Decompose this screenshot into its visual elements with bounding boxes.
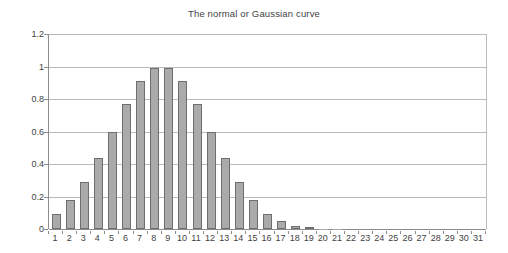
x-tick-mark-24: [372, 231, 373, 234]
x-tick-mark-8: [147, 231, 148, 234]
x-axis-label-23: 23: [360, 233, 370, 243]
bar-18: [291, 226, 300, 229]
x-tick-mark-10: [175, 231, 176, 234]
x-tick-mark-2: [62, 231, 63, 234]
x-tick-mark-26: [400, 231, 401, 234]
x-axis-label-30: 30: [459, 233, 469, 243]
x-tick-mark-17: [274, 231, 275, 234]
x-axis-label-14: 14: [233, 233, 243, 243]
x-tick-mark-16: [259, 231, 260, 234]
bar-4: [94, 158, 103, 230]
x-axis-label-19: 19: [304, 233, 314, 243]
x-axis-label-21: 21: [332, 233, 342, 243]
x-axis-label-26: 26: [402, 233, 412, 243]
x-tick-mark-4: [90, 231, 91, 234]
bar-15: [249, 200, 258, 229]
x-axis-label-17: 17: [276, 233, 286, 243]
y-axis-label-0.6: 0.6: [2, 127, 44, 137]
x-axis-label-20: 20: [318, 233, 328, 243]
x-axis-label-1: 1: [53, 233, 58, 243]
x-axis-label-7: 7: [137, 233, 142, 243]
x-axis-label-8: 8: [151, 233, 156, 243]
chart-container: The normal or Gaussian curve 00.20.40.60…: [0, 0, 508, 253]
bar-10: [178, 81, 187, 229]
bars-layer: [49, 34, 486, 229]
x-tick-mark-13: [217, 231, 218, 234]
x-tick-mark-19: [302, 231, 303, 234]
x-tick-mark-25: [386, 231, 387, 234]
x-tick-mark-end: [485, 231, 486, 234]
x-axis-label-11: 11: [191, 233, 200, 243]
x-axis-label-15: 15: [247, 233, 257, 243]
x-tick-mark-30: [457, 231, 458, 234]
x-axis-label-5: 5: [109, 233, 114, 243]
x-axis-label-24: 24: [374, 233, 384, 243]
chart-title: The normal or Gaussian curve: [0, 8, 508, 19]
x-axis-label-22: 22: [346, 233, 356, 243]
y-axis-label-0: 0: [2, 224, 44, 234]
bar-16: [263, 214, 272, 229]
x-axis-label-4: 4: [95, 233, 100, 243]
x-axis-label-28: 28: [431, 233, 441, 243]
y-axis-label-0.4: 0.4: [2, 159, 44, 169]
y-axis-label-0.8: 0.8: [2, 94, 44, 104]
x-tick-mark-22: [344, 231, 345, 234]
x-axis-label-31: 31: [473, 233, 483, 243]
plot-area: [48, 34, 487, 229]
x-axis-label-10: 10: [177, 233, 187, 243]
bar-2: [66, 200, 75, 229]
bar-17: [277, 221, 286, 229]
x-tick-mark-29: [443, 231, 444, 234]
bar-5: [108, 132, 117, 230]
bar-7: [136, 81, 145, 229]
x-axis-label-3: 3: [81, 233, 86, 243]
x-tick-mark-12: [203, 231, 204, 234]
x-tick-mark-28: [429, 231, 430, 234]
x-tick-mark-11: [189, 231, 190, 234]
bar-1: [52, 214, 61, 229]
x-axis-label-18: 18: [290, 233, 300, 243]
bar-3: [80, 182, 89, 229]
x-axis-label-27: 27: [417, 233, 427, 243]
y-axis-label-1: 1: [2, 62, 44, 72]
x-axis-label-25: 25: [388, 233, 398, 243]
x-tick-mark-5: [104, 231, 105, 234]
x-tick-mark-27: [415, 231, 416, 234]
x-tick-mark-1: [48, 231, 49, 234]
bar-14: [235, 182, 244, 229]
x-tick-mark-9: [161, 231, 162, 234]
y-axis-label-0.2: 0.2: [2, 192, 44, 202]
x-tick-mark-31: [471, 231, 472, 234]
y-tick-mark-0: [44, 229, 48, 230]
x-tick-mark-21: [330, 231, 331, 234]
x-axis-label-12: 12: [205, 233, 215, 243]
y-axis-label-1.2: 1.2: [2, 29, 44, 39]
x-axis-label-9: 9: [165, 233, 170, 243]
x-axis-label-6: 6: [123, 233, 128, 243]
bar-19: [305, 227, 314, 229]
bar-11: [193, 104, 202, 229]
x-axis-label-13: 13: [219, 233, 229, 243]
bar-12: [207, 132, 216, 230]
x-axis-label-16: 16: [261, 233, 271, 243]
x-tick-mark-7: [133, 231, 134, 234]
x-tick-mark-20: [316, 231, 317, 234]
x-tick-mark-23: [358, 231, 359, 234]
x-tick-mark-14: [231, 231, 232, 234]
x-tick-mark-18: [288, 231, 289, 234]
x-axis-label-2: 2: [67, 233, 72, 243]
x-tick-mark-6: [118, 231, 119, 234]
x-tick-mark-3: [76, 231, 77, 234]
gridline-0: [49, 229, 486, 230]
bar-9: [164, 68, 173, 229]
x-axis-label-29: 29: [445, 233, 455, 243]
x-tick-mark-15: [245, 231, 246, 234]
bar-13: [221, 158, 230, 230]
bar-8: [150, 68, 159, 229]
x-axis-tick-labels: 1234567891011121314151617181920212223242…: [48, 231, 485, 247]
bar-6: [122, 104, 131, 229]
y-axis-tick-labels: 00.20.40.60.811.2: [0, 34, 44, 229]
